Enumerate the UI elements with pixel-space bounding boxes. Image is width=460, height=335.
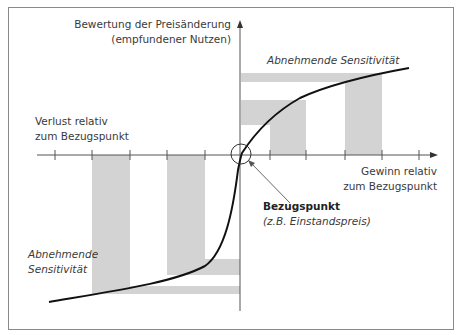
loss-sensitivity-bands: [92, 155, 240, 294]
y-axis-label-line1: Bewertung der Preisänderung: [74, 17, 231, 32]
y-axis-arrow-icon: [237, 20, 243, 28]
loss-axis-label: Verlust relativ zum Bezugspunkt: [35, 114, 129, 144]
gain-label-line2: zum Bezugspunkt: [343, 179, 437, 194]
gain-label-line1: Gewinn relativ: [343, 164, 437, 179]
lower-annotation-line1: Abnehmende: [28, 247, 98, 262]
y-axis-label-line2: (empfundener Nutzen): [74, 32, 231, 47]
loss-label-line1: Verlust relativ: [35, 114, 129, 129]
lower-annotation-line2: Sensitivität: [28, 262, 98, 277]
y-axis-label: Bewertung der Preisänderung (empfundener…: [74, 17, 231, 47]
gain-axis-label: Gewinn relativ zum Bezugspunkt: [343, 164, 437, 194]
lower-sensitivity-annotation: Abnehmende Sensitivität: [28, 247, 98, 277]
upper-sensitivity-annotation: Abnehmende Sensitivität: [267, 53, 399, 68]
reference-point-label: Bezugspunkt (z.B. Einstandspreis): [263, 199, 371, 229]
reference-point-title: Bezugspunkt: [263, 199, 371, 214]
reference-point-example: (z.B. Einstandspreis): [263, 214, 371, 229]
gain-sensitivity-bands: [241, 73, 382, 155]
loss-label-line2: zum Bezugspunkt: [35, 129, 129, 144]
reference-pointer-line: [251, 163, 290, 203]
x-axis-arrow-icon: [430, 152, 438, 158]
